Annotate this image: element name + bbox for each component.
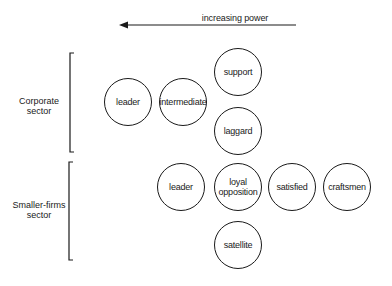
corporate-laggard-label: laggard [224, 126, 253, 136]
smaller-firms-craftsmen-label: craftsmen [328, 182, 366, 192]
smaller-firms-craftsmen-node: craftsmen [323, 163, 371, 211]
corporate-leader-node: leader [104, 78, 152, 126]
corporate-laggard-node: laggard [214, 107, 262, 155]
diagram-lines [0, 0, 392, 286]
smaller-firms-satellite-label: satellite [224, 240, 253, 250]
loyal-opposition-line2: opposition [218, 187, 257, 197]
corporate-support-label: support [224, 67, 253, 77]
smaller-firms-satisfied-label: satisfied [276, 182, 307, 192]
corporate-support-node: support [214, 48, 262, 96]
smaller-firms-sector-label-line2: sector [4, 210, 74, 220]
increasing-power-label: increasing power [180, 13, 290, 23]
loyal-opposition-line1: loyal [218, 177, 257, 187]
smaller-firms-sector-label-line1: Smaller-firms [4, 200, 74, 210]
corporate-intermediate-node: intermediate [159, 78, 207, 126]
smaller-firms-leader-node: leader [157, 163, 205, 211]
corporate-leader-label: leader [116, 97, 140, 107]
smaller-firms-sector-label: Smaller-firms sector [4, 200, 74, 220]
corporate-sector-label-line2: sector [4, 106, 74, 116]
smaller-firms-loyal-opposition-node: loyal opposition [214, 163, 262, 211]
corporate-intermediate-label: intermediate [159, 97, 206, 107]
corporate-sector-label: Corporate sector [4, 96, 74, 116]
smaller-firms-satisfied-node: satisfied [268, 163, 316, 211]
smaller-firms-loyal-opposition-label: loyal opposition [218, 177, 257, 197]
smaller-firms-leader-label: leader [169, 182, 193, 192]
corporate-sector-label-line1: Corporate [4, 96, 74, 106]
smaller-firms-satellite-node: satellite [214, 221, 262, 269]
